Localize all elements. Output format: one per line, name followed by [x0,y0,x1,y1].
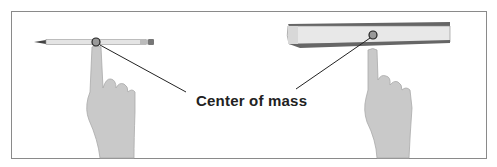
left-hand-illustration [87,46,135,159]
right-hand-illustration [365,49,412,159]
center-of-mass-marker-book [369,31,377,39]
center-of-mass-label: Center of mass [196,92,307,109]
center-of-mass-marker-pencil [92,38,100,46]
diagram-canvas [0,0,497,167]
